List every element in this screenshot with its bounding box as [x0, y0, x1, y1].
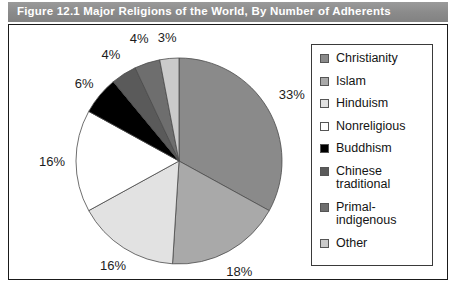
legend-item-label: Other	[336, 237, 367, 251]
legend-item-label: Primal- indigenous	[336, 201, 396, 228]
figure-title-band: Figure 12.1 Major Religions of the World…	[8, 2, 448, 22]
legend-item[interactable]: Other	[320, 237, 432, 251]
pie-slice-value-label: 33%	[279, 88, 305, 101]
legend: ChristianityIslamHinduismNonreligiousBud…	[311, 44, 433, 266]
legend-item-label: Christianity	[336, 52, 398, 66]
pie-slice-value-label: 4%	[101, 47, 120, 60]
legend-item[interactable]: Primal- indigenous	[320, 201, 432, 228]
legend-item-label: Hinduism	[336, 97, 388, 111]
pie-chart: Christianity 33%Islam 18%Hinduism 16%Non…	[9, 25, 309, 281]
legend-swatch-icon	[320, 203, 329, 212]
pie-slice-value-label: 16%	[39, 155, 65, 168]
legend-item[interactable]: Christianity	[320, 52, 432, 66]
legend-swatch-icon	[320, 77, 329, 86]
legend-item-label: Buddhism	[336, 142, 392, 156]
legend-swatch-icon	[320, 54, 329, 63]
legend-swatch-icon	[320, 167, 329, 176]
legend-swatch-icon	[320, 122, 329, 131]
legend-item[interactable]: Nonreligious	[320, 120, 432, 134]
legend-swatch-icon	[320, 144, 329, 153]
legend-item[interactable]: Hinduism	[320, 97, 432, 111]
legend-item-label: Islam	[336, 75, 366, 89]
legend-item[interactable]: Chinese traditional	[320, 165, 432, 192]
pie-slice-value-label: 6%	[75, 76, 94, 89]
pie-slice-value-label: 18%	[226, 264, 252, 277]
figure-title: Figure 12.1 Major Religions of the World…	[17, 6, 391, 18]
legend-swatch-icon	[320, 239, 329, 248]
figure-container: Figure 12.1 Major Religions of the World…	[0, 0, 456, 295]
legend-item[interactable]: Buddhism	[320, 142, 432, 156]
pie-slice-value-label: 4%	[130, 32, 149, 45]
legend-swatch-icon	[320, 99, 329, 108]
pie-slice-value-label: 3%	[158, 30, 177, 43]
legend-item-label: Chinese traditional	[336, 165, 390, 192]
plot-frame: Christianity 33%Islam 18%Hinduism 16%Non…	[8, 24, 448, 280]
legend-item-label: Nonreligious	[336, 120, 405, 134]
pie-slice-value-label: 16%	[100, 258, 126, 271]
pie-slice-group: Christianity 33%Islam 18%Hinduism 16%Non…	[76, 58, 282, 264]
legend-item[interactable]: Islam	[320, 75, 432, 89]
